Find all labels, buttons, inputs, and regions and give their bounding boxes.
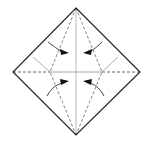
- paper-outline: [13, 8, 140, 135]
- fold-arrow-lower-left: [47, 79, 69, 96]
- edge-crease-left: [33, 57, 50, 72]
- origami-diagram: [0, 0, 149, 143]
- dashed-fold-right: [76, 8, 102, 135]
- fold-arrow-upper-left: [48, 42, 69, 55]
- fold-arrow-upper-right: [83, 42, 102, 55]
- edge-crease-right: [102, 57, 118, 72]
- dashed-fold-left: [50, 8, 76, 135]
